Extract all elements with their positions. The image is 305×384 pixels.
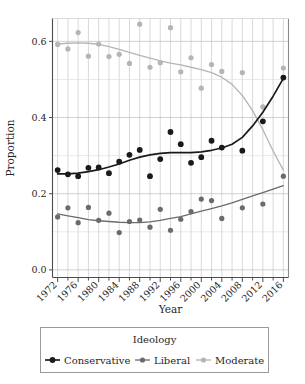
data-point-moderate: [127, 61, 132, 66]
x-tick-label: 2012: [239, 279, 264, 304]
data-point-liberal: [240, 205, 245, 210]
legend-label-conservative: Conservative: [64, 355, 130, 366]
y-axis-title: Proportion: [4, 119, 16, 176]
x-tick-label: 1988: [116, 279, 141, 304]
data-point-liberal: [188, 209, 193, 214]
data-point-liberal: [106, 211, 111, 216]
data-point-moderate: [178, 69, 183, 74]
data-point-liberal: [127, 219, 132, 224]
x-tick-label: 2004: [198, 279, 223, 304]
x-tick-label: 1984: [96, 279, 121, 304]
data-point-liberal: [117, 230, 122, 235]
data-point-conservative: [178, 141, 184, 147]
data-point-conservative: [127, 152, 133, 158]
y-tick-label: 0.2: [31, 188, 46, 199]
data-point-liberal: [260, 201, 265, 206]
data-point-moderate: [281, 65, 286, 70]
chart-figure: 0.00.20.40.61972197619801984198819921996…: [0, 0, 305, 384]
x-tick-label: 1976: [55, 279, 80, 304]
data-point-liberal: [147, 225, 152, 230]
data-point-moderate: [137, 22, 142, 27]
x-tick-label: 1980: [75, 279, 100, 304]
data-point-liberal: [178, 217, 183, 222]
x-axis: 1972197619801984198819921996200020042008…: [34, 278, 285, 305]
chart-canvas: 0.00.20.40.61972197619801984198819921996…: [0, 0, 305, 384]
data-point-conservative: [168, 129, 174, 135]
data-point-moderate: [117, 52, 122, 57]
data-point-liberal: [199, 196, 204, 201]
data-point-conservative: [239, 148, 245, 154]
y-axis: 0.00.20.40.6: [31, 36, 52, 276]
data-point-conservative: [96, 165, 102, 171]
data-point-liberal: [219, 216, 224, 221]
x-tick-label: 2000: [178, 279, 203, 304]
data-point-conservative: [55, 167, 61, 173]
legend-marker-moderate: [201, 357, 206, 362]
data-point-liberal: [209, 198, 214, 203]
x-tick-label: 2016: [260, 279, 285, 304]
data-point-conservative: [209, 138, 215, 144]
data-point-liberal: [158, 207, 163, 212]
data-point-conservative: [157, 156, 163, 162]
legend-marker-conservative: [50, 357, 56, 363]
x-tick-label: 1996: [157, 279, 182, 304]
x-axis-title: Year: [158, 303, 183, 315]
x-tick-label: 1992: [137, 279, 162, 304]
data-point-conservative: [86, 165, 92, 171]
data-point-liberal: [168, 228, 173, 233]
data-point-moderate: [158, 60, 163, 65]
data-point-moderate: [219, 69, 224, 74]
data-point-liberal: [55, 214, 60, 219]
data-point-conservative: [65, 171, 71, 177]
x-tick-label: 2008: [219, 279, 244, 304]
data-point-moderate: [86, 54, 91, 59]
data-point-conservative: [260, 118, 266, 124]
data-point-moderate: [96, 41, 101, 46]
data-point-moderate: [76, 30, 81, 35]
legend: IdeologyConservativeLiberalModerate: [41, 328, 269, 373]
data-point-liberal: [137, 217, 142, 222]
data-point-conservative: [188, 160, 194, 166]
data-point-moderate: [240, 70, 245, 75]
data-point-moderate: [147, 65, 152, 70]
legend-marker-liberal: [140, 357, 145, 362]
data-point-moderate: [106, 54, 111, 59]
legend-label-liberal: Liberal: [154, 355, 190, 366]
data-point-liberal: [76, 220, 81, 225]
data-point-liberal: [96, 218, 101, 223]
data-point-liberal: [86, 205, 91, 210]
data-point-conservative: [106, 170, 112, 176]
data-point-moderate: [209, 62, 214, 67]
y-tick-label: 0.4: [31, 112, 46, 123]
legend-label-moderate: Moderate: [215, 355, 264, 366]
y-tick-label: 0.0: [31, 264, 46, 275]
data-point-conservative: [147, 173, 153, 179]
data-point-moderate: [188, 55, 193, 60]
y-tick-label: 0.6: [31, 36, 46, 47]
data-point-moderate: [55, 42, 60, 47]
data-point-moderate: [65, 46, 70, 51]
data-point-conservative: [116, 159, 122, 165]
data-point-conservative: [198, 154, 204, 160]
legend-title: Ideology: [133, 334, 177, 345]
data-point-liberal: [281, 174, 286, 179]
data-point-conservative: [280, 75, 286, 81]
data-point-moderate: [168, 25, 173, 30]
data-point-conservative: [137, 147, 143, 153]
data-point-moderate: [199, 86, 204, 91]
data-point-conservative: [75, 173, 81, 179]
data-point-liberal: [65, 205, 70, 210]
x-tick-label: 1972: [34, 279, 59, 304]
data-point-conservative: [219, 145, 225, 151]
